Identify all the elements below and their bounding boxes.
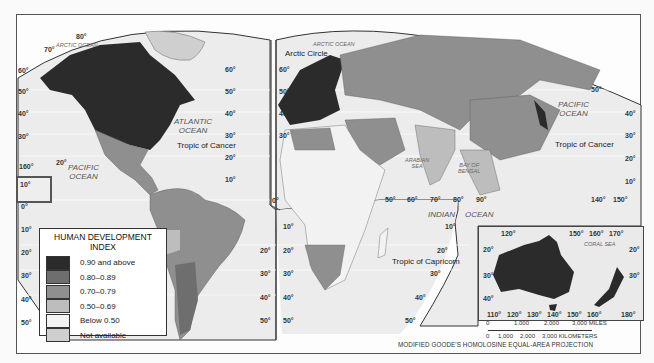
- mid-left-20: 20°: [225, 154, 236, 161]
- arctic-ocean-east-label: ARCTIC OCEAN: [313, 41, 355, 47]
- arabian-sea-label: ARABIAN SEA: [405, 157, 429, 170]
- aus-lon-140-b: 140°: [547, 311, 561, 318]
- legend-item: 0.50–0.69: [46, 299, 160, 314]
- arabian-line-2: SEA: [405, 163, 429, 169]
- east-lat-30: 30°: [625, 132, 636, 139]
- sa-40: 40°: [260, 294, 271, 301]
- aus-lat-20-left: 20°: [483, 246, 494, 253]
- pacific-ocean-west-label: PACIFIC OCEAN: [68, 163, 99, 181]
- legend-label: 0.70–0.79: [80, 287, 116, 296]
- legend-label: 0.50–0.69: [80, 302, 116, 311]
- atlantic-line-1: ATLANTIC: [174, 117, 212, 126]
- africa-50: 50°: [283, 317, 294, 324]
- legend-title: HUMAN DEVELOPMENT INDEX: [46, 233, 160, 253]
- legend-swatch: [46, 256, 70, 270]
- africa-40: 40°: [283, 294, 294, 301]
- scale-km-3000: 3,000 KILOMETERS: [542, 333, 597, 339]
- scale-km-1000: 1,000: [498, 333, 513, 339]
- lat-s30-left: 30°: [21, 272, 32, 279]
- scale-bar: 0 1,000 2,000 3,000 MILES 0 1,000 2,000 …: [486, 320, 646, 342]
- legend-swatch: [46, 328, 70, 342]
- east-lat-20: 20°: [625, 155, 636, 162]
- lat-70: 70°: [44, 46, 55, 53]
- aus-lat-20-right: 20°: [629, 246, 640, 253]
- indian-lat-20: 20°: [437, 247, 448, 254]
- scale-line: [488, 330, 592, 331]
- aus-lat-40-left: 40°: [483, 295, 494, 302]
- lat-80: 80°: [76, 33, 87, 40]
- sa-20: 20°: [260, 247, 271, 254]
- aus-lon-120-b: 120°: [507, 311, 521, 318]
- lat-30-left: 30°: [18, 133, 29, 140]
- legend-item: Not available: [46, 328, 160, 343]
- lat-s20-left: 20°: [21, 249, 32, 256]
- sa-30: 30°: [260, 270, 271, 277]
- legend-label: Not available: [80, 331, 126, 340]
- legend-label: Below 0.50: [80, 316, 120, 325]
- aus-lon-150-b: 150°: [567, 311, 581, 318]
- pacific-east-line-2: OCEAN: [558, 109, 589, 118]
- coral-sea-label: CORAL SEA: [584, 241, 615, 247]
- scale-miles-3000: 3,000 MILES: [572, 320, 607, 326]
- mid-right-40: 40°: [279, 110, 290, 117]
- indian-lat-40: 40°: [415, 294, 426, 301]
- legend-swatch: [46, 314, 70, 328]
- lat-0-left: 0°: [21, 203, 28, 210]
- aus-lon-130-b: 130°: [527, 311, 541, 318]
- lat-s40-left: 40°: [21, 296, 32, 303]
- aus-lon-150: 150°: [569, 230, 583, 237]
- pacific-west-line-2: OCEAN: [68, 172, 99, 181]
- legend-item: Below 0.50: [46, 314, 160, 329]
- hawaii-lat-20: 20°: [56, 159, 67, 166]
- lon-50: 50°: [385, 196, 396, 203]
- legend-swatch: [46, 270, 70, 284]
- lon-140: 140°: [591, 196, 605, 203]
- africa-0: 0°: [272, 197, 279, 204]
- legend-item: 0.70–0.79: [46, 285, 160, 300]
- lon-80: 80°: [453, 196, 464, 203]
- east-lat-50: 50°: [591, 86, 602, 93]
- indian-ocean-label-1: INDIAN: [428, 210, 455, 219]
- arctic-ocean-west-label: ARCTIC OCEAN: [56, 42, 98, 48]
- scale-km-2000: 2,000: [520, 333, 535, 339]
- lon-150: 150°: [613, 196, 627, 203]
- lat-s50-left: 50°: [21, 319, 32, 326]
- aus-lon-170: 170°: [609, 230, 623, 237]
- atlantic-line-2: OCEAN: [174, 126, 212, 135]
- scale-km-0: 0: [486, 333, 489, 339]
- africa-30: 30°: [283, 270, 294, 277]
- pacific-west-line-1: PACIFIC: [68, 163, 99, 172]
- indian-lat-30: 30°: [430, 270, 441, 277]
- aus-lon-160-b: 160°: [587, 311, 601, 318]
- legend-swatch: [46, 299, 70, 313]
- projection-caption: MODIFIED GOODE'S HOMOLOSINE EQUAL-AREA P…: [398, 341, 593, 348]
- atlantic-ocean-label: ATLANTIC OCEAN: [174, 117, 212, 135]
- indian-ocean-label-2: OCEAN: [465, 210, 493, 219]
- pacific-east-line-1: PACIFIC: [558, 100, 589, 109]
- sa-50: 50°: [260, 317, 271, 324]
- indian-lat-50: 50°: [405, 317, 416, 324]
- hawaii-lon-160: 160°: [19, 163, 33, 170]
- tropic-of-cancer-west: Tropic of Cancer: [177, 142, 236, 150]
- tropic-of-cancer-east: Tropic of Cancer: [555, 141, 614, 149]
- legend-label: 0.80–0.89: [80, 273, 116, 282]
- mid-left-50: 50°: [225, 88, 236, 95]
- pacific-ocean-east-label: PACIFIC OCEAN: [558, 100, 589, 118]
- australia-graphic: [479, 227, 645, 322]
- hdi-legend: HUMAN DEVELOPMENT INDEX 0.90 and above 0…: [39, 228, 167, 336]
- aus-lat-30-right: 30°: [629, 272, 640, 279]
- east-lat-40: 40°: [625, 110, 636, 117]
- africa-20: 20°: [283, 247, 294, 254]
- legend-title-line-2: INDEX: [46, 243, 160, 253]
- legend-label: 0.90 and above: [80, 258, 135, 267]
- bay-of-bengal-label: BAY OF BENGAL: [458, 162, 480, 175]
- aus-lon-120: 120°: [501, 230, 515, 237]
- legend-item: 0.90 and above: [46, 256, 160, 271]
- east-lat-10: 10°: [625, 178, 636, 185]
- aus-lon-180-b: 180°: [621, 311, 635, 318]
- lat-s10-left: 10°: [21, 226, 32, 233]
- mid-left-40: 40°: [225, 110, 236, 117]
- mid-left-30: 30°: [225, 132, 236, 139]
- mid-left-10: 10°: [225, 176, 236, 183]
- lat-50-left: 50°: [18, 88, 29, 95]
